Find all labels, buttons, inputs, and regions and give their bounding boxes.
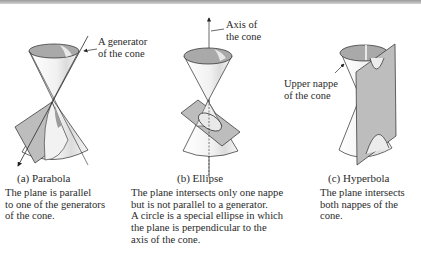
description-line: cone.	[320, 210, 405, 222]
description-line: the plane is perpendicular to the	[131, 222, 283, 234]
annotation-line: of the cone	[284, 90, 338, 102]
parabola-caption-title: (a) Parabola	[17, 172, 70, 184]
axis-annotation: Axis of the cone	[226, 19, 261, 43]
ellipse-caption-title: (b) Ellipse	[177, 172, 223, 184]
description-line: The plane intersects only one nappe	[131, 187, 283, 199]
ellipse-description: The plane intersects only one nappe but …	[131, 187, 283, 246]
hyperbola-caption-title: (c) Hyperbola	[328, 172, 389, 184]
annotation-line: A generator	[98, 36, 147, 48]
description-line: of the cone.	[5, 210, 105, 222]
annotation-line: of the cone	[98, 48, 147, 60]
description-line: A circle is a special ellipse in which	[131, 210, 283, 222]
parabola-description: The plane is parallel to one of the gene…	[5, 187, 105, 222]
generator-annotation: A generator of the cone	[98, 36, 147, 60]
description-line: to one of the generators	[5, 199, 105, 211]
annotation-line: the cone	[226, 31, 261, 43]
description-line: axis of the cone.	[131, 234, 283, 246]
description-line: both nappes of the	[320, 199, 405, 211]
upper-nappe-annotation: Upper nappe of the cone	[284, 78, 338, 102]
hyperbola-description: The plane intersects both nappes of the …	[320, 187, 405, 222]
parabola-diagram	[15, 36, 97, 166]
description-line: The plane is parallel	[5, 187, 105, 199]
annotation-line: Axis of	[226, 19, 261, 31]
annotation-line: Upper nappe	[284, 78, 338, 90]
description-line: but is not parallel to a generator.	[131, 199, 283, 211]
hyperbola-diagram	[335, 44, 396, 165]
description-line: The plane intersects	[320, 187, 405, 199]
